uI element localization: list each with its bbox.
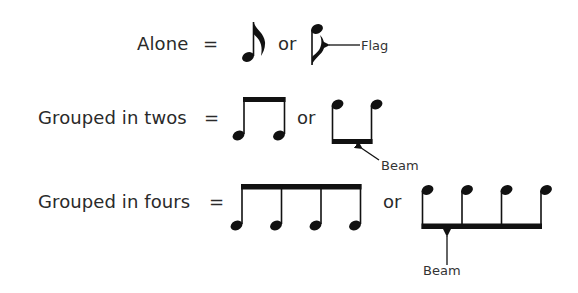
eighth-note-stem-up-icon bbox=[240, 22, 265, 64]
beamed-four-stems-down-icon bbox=[420, 183, 554, 229]
beamed-pair-stems-up-icon bbox=[231, 97, 287, 142]
beam-arrow-icon bbox=[362, 149, 379, 161]
notation-graphics bbox=[0, 0, 578, 293]
beamed-pair-stems-down-icon bbox=[330, 98, 384, 144]
eighth-note-notation-diagram: Alone = or Flag Grouped in twos = or Bea… bbox=[0, 0, 578, 293]
beamed-four-stems-up-icon bbox=[229, 184, 363, 232]
eighth-note-stem-down-icon bbox=[309, 22, 324, 65]
